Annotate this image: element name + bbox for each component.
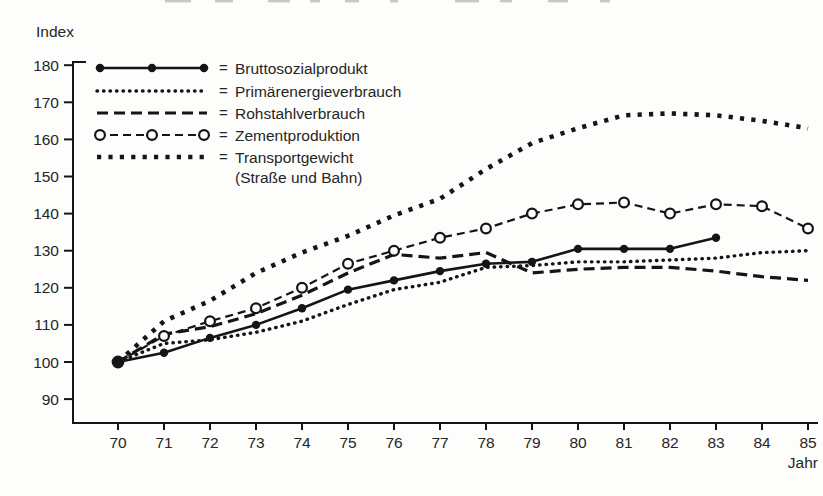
x-axis-title: Jahr — [788, 454, 818, 471]
series-bruttosozialprodukt-point — [160, 349, 168, 357]
legend-item-primaerenergieverbrauch: =Primärenergieverbrauch — [97, 82, 401, 100]
legend-eq-sign: = — [219, 148, 228, 165]
legend-eq-sign: = — [219, 59, 228, 76]
legend-marker — [199, 130, 209, 140]
series-bruttosozialprodukt-point — [574, 245, 582, 253]
x-tick-label: 73 — [247, 434, 264, 451]
legend-label-rohstahlverbrauch: Rohstahlverbrauch — [235, 105, 365, 122]
series-zementproduktion-point — [481, 224, 491, 234]
x-tick-label: 84 — [753, 434, 771, 451]
series-zementproduktion-point — [205, 316, 215, 326]
x-tick-label: 75 — [339, 434, 356, 451]
x-tick-label: 71 — [155, 434, 172, 451]
series-rohstahlverbrauch — [118, 253, 808, 362]
x-tick-label: 77 — [431, 434, 448, 451]
series-zementproduktion-point — [527, 209, 537, 219]
legend-marker — [148, 64, 156, 72]
legend-label-zementproduktion: Zementproduktion — [235, 127, 360, 144]
legend-item-zementproduktion: =Zementproduktion — [95, 126, 360, 144]
y-tick-label: 90 — [42, 391, 60, 408]
legend-marker — [95, 130, 105, 140]
series-bruttosozialprodukt-point — [344, 285, 352, 293]
y-tick-label: 140 — [33, 205, 59, 222]
series-bruttosozialprodukt-point — [528, 258, 536, 266]
y-tick-label: 100 — [33, 354, 59, 371]
x-tick-label: 80 — [569, 434, 587, 451]
series-zementproduktion-point — [343, 259, 353, 269]
x-tick-label: 83 — [707, 434, 724, 451]
y-tick-label: 120 — [33, 279, 59, 296]
y-tick-label: 160 — [33, 131, 59, 148]
series-bruttosozialprodukt-point — [666, 245, 674, 253]
cropped-text-remnant — [165, 0, 610, 2]
legend-eq-sign: = — [219, 126, 228, 143]
legend-eq-sign: = — [219, 104, 228, 121]
x-tick-label: 74 — [293, 434, 311, 451]
series-zementproduktion-point — [251, 303, 261, 313]
x-tick-label: 76 — [385, 434, 402, 451]
line-chart: 90100110120130140150160170180Index707172… — [0, 0, 823, 496]
y-tick-label: 170 — [33, 94, 59, 111]
series-bruttosozialprodukt-point — [482, 259, 490, 267]
legend-marker — [96, 64, 104, 72]
legend-item-bruttosozialprodukt: =Bruttosozialprodukt — [96, 59, 369, 77]
series-zementproduktion — [118, 198, 813, 362]
x-tick-label: 70 — [109, 434, 127, 451]
series-zementproduktion-point — [619, 198, 629, 208]
series-bruttosozialprodukt-point — [298, 304, 306, 312]
series-bruttosozialprodukt-point — [206, 334, 214, 342]
series-bruttosozialprodukt-point — [252, 321, 260, 329]
series-rohstahlverbrauch-line — [118, 253, 808, 362]
legend-sublabel-transportgewicht: (Straße und Bahn) — [235, 169, 363, 186]
legend-eq-sign: = — [219, 82, 228, 99]
series-zementproduktion-point — [757, 201, 767, 211]
x-tick-label: 72 — [201, 434, 218, 451]
y-axis: 90100110120130140150160170180Index — [33, 23, 74, 408]
series-zementproduktion-point — [711, 199, 721, 209]
legend-label-bruttosozialprodukt: Bruttosozialprodukt — [235, 60, 368, 77]
series-bruttosozialprodukt-point — [620, 245, 628, 253]
series-bruttosozialprodukt-point — [712, 234, 720, 242]
x-tick-label: 82 — [661, 434, 678, 451]
legend-marker — [200, 64, 208, 72]
legend-item-transportgewicht: =Transportgewicht(Straße und Bahn) — [97, 148, 363, 186]
series-bruttosozialprodukt-point — [436, 267, 444, 275]
y-tick-label: 150 — [33, 168, 59, 185]
series-zementproduktion-point — [389, 246, 399, 256]
y-tick-label: 130 — [33, 242, 59, 259]
legend-label-primaerenergieverbrauch: Primärenergieverbrauch — [235, 83, 401, 100]
legend-item-rohstahlverbrauch: =Rohstahlverbrauch — [97, 104, 365, 122]
series-bruttosozialprodukt — [112, 234, 721, 369]
x-tick-label: 85 — [799, 434, 816, 451]
series-zementproduktion-point — [297, 283, 307, 293]
series-bruttosozialprodukt-point — [112, 356, 125, 369]
series-bruttosozialprodukt-line — [118, 238, 716, 362]
legend-label-transportgewicht: Transportgewicht — [235, 149, 354, 166]
y-tick-label: 110 — [34, 316, 59, 333]
y-axis-title: Index — [36, 23, 74, 40]
chart-frame: 90100110120130140150160170180Index707172… — [0, 0, 823, 496]
series-zementproduktion-point — [435, 233, 445, 243]
legend-marker — [147, 130, 157, 140]
series-zementproduktion-point — [159, 331, 169, 341]
x-axis: 70717273747576777879808182838485Jahr — [109, 423, 818, 471]
series-zementproduktion-point — [803, 224, 813, 234]
x-tick-label: 79 — [523, 434, 540, 451]
y-tick-label: 180 — [33, 57, 59, 74]
x-tick-label: 81 — [615, 434, 632, 451]
series-zementproduktion-point — [665, 209, 675, 219]
series-zementproduktion-line — [118, 202, 808, 362]
series-bruttosozialprodukt-point — [390, 276, 398, 284]
x-tick-label: 78 — [477, 434, 494, 451]
series-zementproduktion-point — [573, 199, 583, 209]
